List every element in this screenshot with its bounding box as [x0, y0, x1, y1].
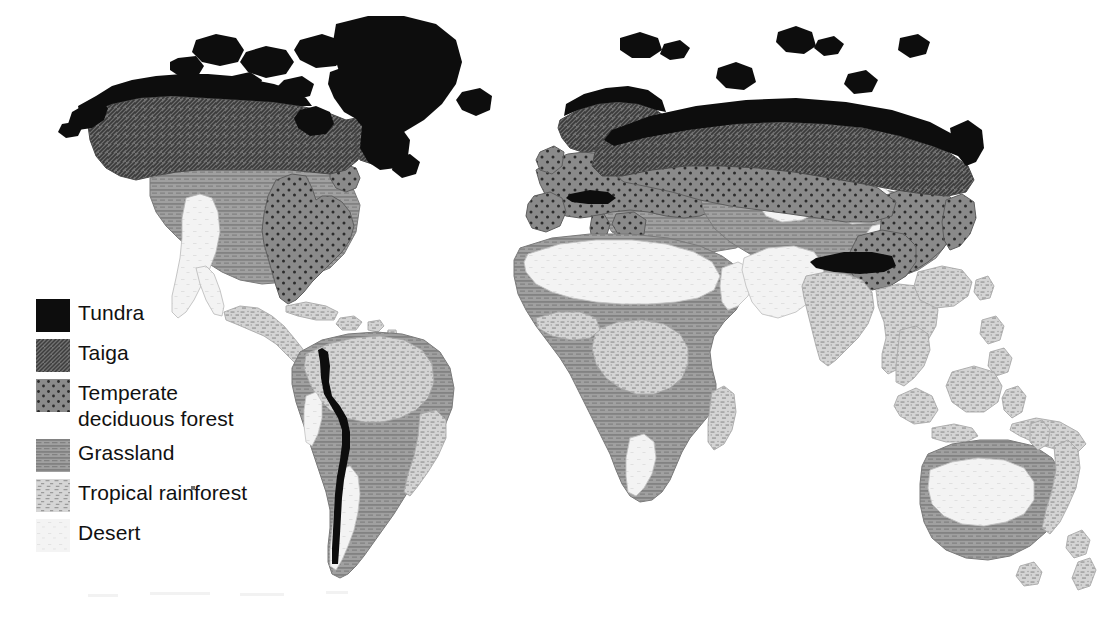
legend-label-taiga: Taiga	[78, 338, 129, 365]
scan-speck	[326, 591, 348, 594]
legend-item-temperate-forest[interactable]: Temperate deciduous forest	[36, 378, 296, 432]
legend-item-desert[interactable]: Desert	[36, 518, 296, 552]
biome-map-figure: Tundra Taiga Temperate deciduous forest	[0, 0, 1100, 634]
legend-item-tundra[interactable]: Tundra	[36, 298, 296, 332]
legend-swatch-tundra	[36, 299, 70, 332]
legend-label-desert: Desert	[78, 518, 140, 545]
legend-swatch-rainforest	[36, 479, 70, 512]
legend-label-temperate-forest: Temperate deciduous forest	[78, 378, 234, 432]
scan-speck	[240, 593, 284, 596]
scan-speck	[88, 594, 118, 597]
europe-temperate-forest-iberia	[526, 192, 566, 232]
legend-swatch-taiga	[36, 339, 70, 372]
legend-item-taiga[interactable]: Taiga	[36, 338, 296, 372]
legend-label-grassland: Grassland	[78, 438, 175, 465]
scan-artifact-dot	[191, 486, 195, 490]
legend-swatch-temperate-forest	[36, 379, 70, 412]
legend-label-tundra: Tundra	[78, 298, 144, 325]
legend-swatch-grassland	[36, 439, 70, 472]
legend-swatch-desert	[36, 519, 70, 552]
biome-legend: Tundra Taiga Temperate deciduous forest	[36, 298, 296, 558]
legend-item-rainforest[interactable]: Tropical rainforest	[36, 478, 296, 512]
scan-speck	[150, 592, 210, 595]
australia-desert	[928, 458, 1034, 526]
legend-item-grassland[interactable]: Grassland	[36, 438, 296, 472]
legend-label-rainforest: Tropical rainforest	[78, 478, 247, 505]
